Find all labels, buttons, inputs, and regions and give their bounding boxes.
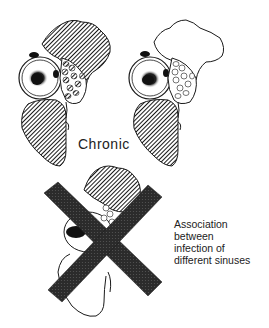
- caption-line-3: infection of: [174, 242, 269, 254]
- caption-line-2: between: [174, 230, 269, 242]
- bottom-panel: [44, 166, 162, 316]
- maxillary-sinus-shaded: [134, 100, 178, 167]
- association-caption: Association between infection of differe…: [174, 218, 269, 266]
- right-panel: [129, 20, 224, 166]
- caption-line-4: different sinuses: [174, 254, 269, 266]
- chronic-label: Chronic: [78, 136, 130, 152]
- maxillary-sinus-shaded: [22, 100, 66, 167]
- sinus-diagram: [0, 0, 269, 328]
- caption-line-1: Association: [174, 218, 269, 230]
